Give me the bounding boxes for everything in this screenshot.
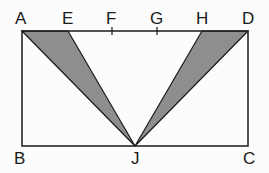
label-c: C [243, 149, 255, 168]
shaded-triangle-aej [22, 31, 135, 146]
label-g: G [150, 9, 163, 28]
label-e: E [62, 9, 73, 28]
label-f: F [106, 9, 116, 28]
shaded-triangle-hdj [135, 31, 248, 146]
label-j: J [131, 149, 140, 168]
label-h: H [196, 9, 208, 28]
geometry-diagram: A E F G H D B J C [0, 0, 269, 173]
label-d: D [242, 9, 254, 28]
label-a: A [15, 9, 27, 28]
label-b: B [14, 149, 25, 168]
